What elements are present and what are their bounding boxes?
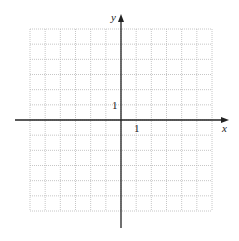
y-axis-arrow-icon xyxy=(118,14,124,22)
y-tick-label: 1 xyxy=(112,100,118,111)
y-axis-label: y xyxy=(111,12,116,23)
x-axis-label: x xyxy=(222,123,227,134)
x-tick-label: 1 xyxy=(134,123,140,134)
coordinate-plane xyxy=(0,0,239,241)
